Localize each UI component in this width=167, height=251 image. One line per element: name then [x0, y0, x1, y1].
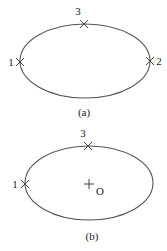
point-label-1: 1: [8, 56, 14, 68]
diagram-a: 3 1 2 (a): [8, 5, 162, 119]
point-label-2: 2: [156, 55, 162, 67]
diagram-canvas: 3 1 2 (a) 3 1 O (b): [0, 0, 167, 251]
caption-a: (a): [78, 106, 91, 119]
center-label-o: O: [96, 185, 104, 197]
caption-b: (b): [86, 230, 99, 243]
plus-marker-icon: [84, 179, 94, 189]
point-label-3: 3: [75, 5, 81, 17]
point-label-3: 3: [80, 127, 86, 139]
ellipse-a: [20, 24, 150, 98]
point-label-1: 1: [12, 178, 18, 190]
diagram-b: 3 1 O (b): [12, 127, 153, 243]
